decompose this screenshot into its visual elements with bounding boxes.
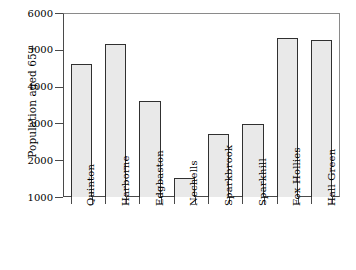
x-axis-tick — [105, 197, 106, 204]
x-axis-tick — [71, 197, 72, 204]
x-axis-label: Hall Green — [326, 149, 337, 206]
x-axis-label: Fox Hollies — [291, 147, 302, 206]
x-axis-tick — [208, 197, 209, 204]
x-axis-label: Quinton — [85, 164, 96, 206]
x-axis-tick — [242, 197, 243, 204]
y-axis-tick-label: 3000 — [28, 117, 53, 131]
bar-chart: Population aged 65+ 10002000300040005000… — [0, 0, 356, 270]
x-axis-label: Edgbaston — [154, 150, 165, 206]
y-axis-tick: 5000 — [55, 50, 63, 51]
y-axis-tick-label: 1000 — [28, 191, 53, 205]
y-axis-tick: 6000 — [55, 13, 63, 14]
x-axis-tick — [139, 197, 140, 204]
x-axis-label: Sparkhill — [257, 158, 268, 206]
y-axis-tick: 2000 — [55, 160, 63, 161]
y-axis-tick: 3000 — [55, 123, 63, 124]
x-axis-tick — [277, 197, 278, 204]
x-axis-tick — [174, 197, 175, 204]
x-axis-label: Nechells — [188, 160, 199, 206]
y-axis-tick-label: 4000 — [28, 80, 53, 94]
y-axis-tick: 4000 — [55, 87, 63, 88]
y-axis-tick: 1000 — [55, 197, 63, 198]
y-axis-tick-label: 2000 — [28, 154, 53, 168]
y-axis-tick-label: 5000 — [28, 43, 53, 57]
x-axis-label: Harborne — [120, 155, 131, 206]
x-axis-tick — [311, 197, 312, 204]
y-axis-tick-label: 6000 — [28, 7, 53, 21]
x-axis-label: Sparkbrook — [223, 145, 234, 206]
